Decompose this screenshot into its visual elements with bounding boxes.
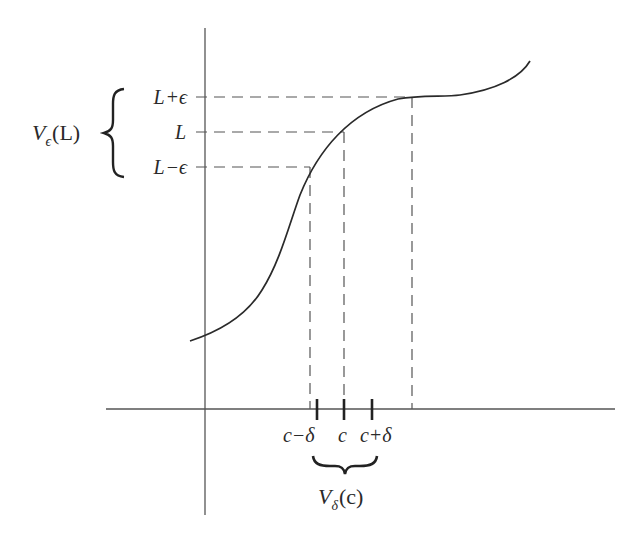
label-l: L bbox=[174, 121, 186, 143]
vertical-guides bbox=[310, 97, 412, 409]
label-c-plus-delta: c+δ bbox=[360, 424, 392, 446]
function-curve bbox=[190, 61, 530, 341]
label-v-delta-c: Vδ(c) bbox=[318, 484, 363, 513]
under-brace bbox=[313, 456, 377, 474]
label-c: c bbox=[338, 424, 347, 446]
label-c-minus-delta: c−δ bbox=[283, 424, 315, 446]
label-l-minus-eps: L−ϵ bbox=[153, 156, 188, 178]
left-brace bbox=[104, 89, 124, 177]
epsilon-delta-diagram: L+ϵ L L−ϵ Vϵ(L) c−δ c c+δ Vδ(c) bbox=[0, 0, 643, 535]
label-v-eps-l: Vϵ(L) bbox=[32, 120, 80, 149]
horizontal-guides bbox=[196, 97, 412, 167]
label-l-plus-eps: L+ϵ bbox=[153, 86, 188, 108]
